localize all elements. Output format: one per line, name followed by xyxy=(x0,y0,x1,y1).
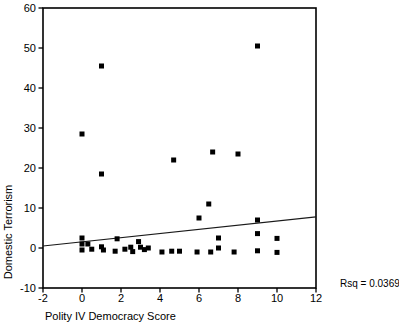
x-tick-label: 12 xyxy=(310,292,322,304)
data-point xyxy=(169,249,174,254)
data-point xyxy=(89,247,94,252)
data-point xyxy=(195,250,200,255)
x-axis-title: Polity IV Democracy Score xyxy=(45,310,176,322)
data-point xyxy=(136,239,141,244)
x-tick-label: 0 xyxy=(79,292,85,304)
data-point xyxy=(99,172,104,177)
data-point xyxy=(210,150,215,155)
data-point xyxy=(128,245,133,250)
data-point xyxy=(80,242,85,247)
y-tick-label: 30 xyxy=(24,122,36,134)
data-point xyxy=(177,249,182,254)
data-point xyxy=(101,248,106,253)
data-point xyxy=(85,242,90,247)
x-tick-label: 6 xyxy=(196,292,202,304)
data-point xyxy=(255,231,260,236)
data-point xyxy=(115,236,120,241)
x-tick-label: 4 xyxy=(157,292,163,304)
data-point xyxy=(255,248,260,253)
x-tick-label: 10 xyxy=(271,292,283,304)
data-point xyxy=(236,152,241,157)
data-point xyxy=(275,236,280,241)
y-tick-label: 60 xyxy=(24,2,36,14)
data-point xyxy=(197,216,202,221)
data-point xyxy=(146,246,151,251)
x-tick-label: -2 xyxy=(38,292,48,304)
data-point xyxy=(275,250,280,255)
data-point xyxy=(255,218,260,223)
x-tick-label: 8 xyxy=(235,292,241,304)
rsq-annotation: Rsq = 0.0369 xyxy=(340,278,399,289)
y-tick-label: 0 xyxy=(30,242,36,254)
y-tick-label: 50 xyxy=(24,42,36,54)
chart-canvas: 6050403020100-10-2024681012 Domestic Ter… xyxy=(0,0,399,333)
data-point xyxy=(80,236,85,241)
y-tick-label: 40 xyxy=(24,82,36,94)
data-point xyxy=(99,64,104,69)
y-tick-label: 10 xyxy=(24,202,36,214)
data-point xyxy=(255,44,260,49)
data-point xyxy=(208,250,213,255)
data-point xyxy=(216,236,221,241)
plot-generated-layer: 6050403020100-10-2024681012 xyxy=(20,2,322,304)
data-point xyxy=(122,247,127,252)
data-point xyxy=(159,250,164,255)
data-point xyxy=(206,202,211,207)
y-tick-label: -10 xyxy=(20,282,36,294)
data-point xyxy=(80,132,85,137)
x-tick-label: 2 xyxy=(118,292,124,304)
scatter-chart: 6050403020100-10-2024681012 Domestic Ter… xyxy=(0,0,399,333)
data-point xyxy=(216,246,221,251)
data-point xyxy=(232,250,237,255)
y-axis-title: Domestic Terrorism xyxy=(2,185,14,280)
data-point xyxy=(130,249,135,254)
data-point xyxy=(171,158,176,163)
y-tick-label: 20 xyxy=(24,162,36,174)
data-point xyxy=(113,249,118,254)
data-point xyxy=(80,248,85,253)
